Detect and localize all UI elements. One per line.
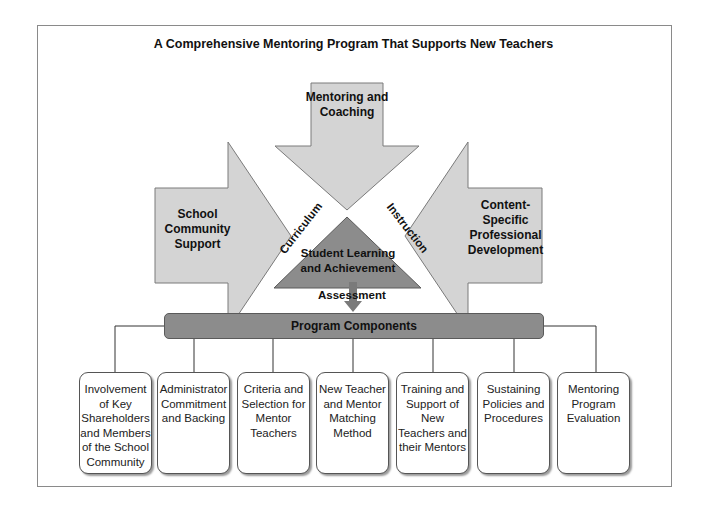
component-box: Training and Support of New Teachers and… bbox=[396, 372, 469, 474]
mentoring-coaching-label: Mentoring and Coaching bbox=[305, 90, 389, 120]
content-specific-pd-label: Content-Specific Professional Developmen… bbox=[458, 198, 553, 258]
component-box: New Teacher and Mentor Matching Method bbox=[316, 372, 389, 474]
component-box: Criteria and Selection for Mentor Teache… bbox=[237, 372, 310, 474]
student-learning-label: Student Learning and Achievement bbox=[292, 246, 404, 276]
component-box: Administrator Commitment and Backing bbox=[157, 372, 230, 474]
school-community-support-label: School Community Support bbox=[160, 207, 235, 252]
assessment-label: Assessment bbox=[318, 289, 386, 301]
component-box: Involvement of Key Shareholders and Memb… bbox=[79, 372, 152, 474]
component-box: Sustaining Policies and Procedures bbox=[477, 372, 550, 474]
component-box: Mentoring Program Evaluation bbox=[557, 372, 630, 474]
program-components-header: Program Components bbox=[164, 313, 544, 339]
